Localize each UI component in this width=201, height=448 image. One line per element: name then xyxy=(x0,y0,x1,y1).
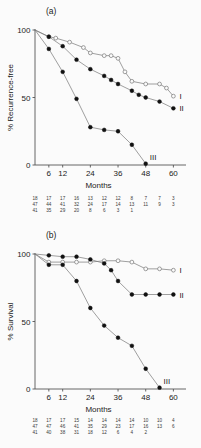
data-point-III xyxy=(61,70,65,74)
risk-table-cell: 41 xyxy=(32,430,37,436)
curve-label-I: I xyxy=(179,92,181,101)
data-point-II xyxy=(130,89,134,93)
y-axis-title: % Recurrence-free xyxy=(6,63,15,131)
data-point-I xyxy=(54,36,58,40)
risk-table-row: 414038311812642 xyxy=(0,430,201,436)
data-point-I xyxy=(68,40,72,44)
x-tick-label: 36 xyxy=(114,393,123,402)
curve-label-II: II xyxy=(179,104,183,113)
data-point-II xyxy=(109,268,113,272)
data-point-III xyxy=(47,47,51,51)
y-tick-label: 0 xyxy=(26,385,31,394)
data-point-II xyxy=(75,58,79,62)
data-point-II xyxy=(102,262,106,266)
data-point-II xyxy=(171,106,175,110)
data-point-III xyxy=(88,306,92,310)
series-line-III xyxy=(35,30,146,164)
data-point-I xyxy=(88,51,92,55)
data-point-I xyxy=(102,54,106,58)
panel-a-figure: (a)05010061224364860Months% Recurrence-f… xyxy=(0,0,201,224)
data-point-II xyxy=(88,258,92,262)
curve-label-II: II xyxy=(179,291,183,300)
data-point-III xyxy=(75,279,79,283)
risk-table-cell: 29 xyxy=(60,208,65,214)
x-tick-label: 36 xyxy=(114,169,123,178)
data-point-III xyxy=(47,263,51,267)
y-axis-title: % Survival xyxy=(6,302,15,340)
risk-table-cell: 40 xyxy=(46,430,51,436)
data-point-II xyxy=(158,293,162,297)
data-point-I xyxy=(75,260,79,264)
risk-table-cell: 35 xyxy=(46,208,51,214)
data-point-III xyxy=(158,386,162,390)
risk-table-cell: 41 xyxy=(32,208,37,214)
x-tick-label: 24 xyxy=(86,169,95,178)
data-point-III xyxy=(130,344,134,348)
data-point-I xyxy=(171,268,175,272)
x-tick-label: 48 xyxy=(141,393,150,402)
data-point-I xyxy=(116,56,120,60)
risk-table-cell: 31 xyxy=(74,430,79,436)
y-tick-label: 50 xyxy=(22,318,31,327)
risk-table-cell: 18 xyxy=(88,430,93,436)
risk-table-cell: 20 xyxy=(74,208,79,214)
risk-table-cell: 12 xyxy=(102,430,107,436)
x-tick-label: 6 xyxy=(47,169,52,178)
data-point-III xyxy=(144,162,148,166)
data-point-II xyxy=(171,293,175,297)
y-tick-label: 0 xyxy=(26,161,31,170)
data-point-II xyxy=(130,293,134,297)
data-point-II xyxy=(47,35,51,39)
y-tick-label: 100 xyxy=(17,250,31,259)
x-tick-label: 12 xyxy=(58,393,67,402)
risk-table-cell: 3 xyxy=(117,208,120,214)
x-axis-title: Months xyxy=(85,405,111,414)
data-point-II xyxy=(47,253,51,257)
risk-table-cell: 6 xyxy=(103,208,106,214)
series-line-III xyxy=(35,254,160,388)
data-point-I xyxy=(144,267,148,271)
x-tick-label: 24 xyxy=(86,393,95,402)
data-point-II xyxy=(61,44,65,48)
data-point-II xyxy=(109,78,113,82)
curve-label-I: I xyxy=(179,266,181,275)
y-tick-label: 50 xyxy=(22,94,31,103)
panel-b-risk-table: 1817171514141414101044747464135292317161… xyxy=(0,418,201,437)
data-point-III xyxy=(102,128,106,132)
data-point-I xyxy=(144,82,148,86)
data-point-I xyxy=(130,260,134,264)
risk-table-cell: 38 xyxy=(60,430,65,436)
series-line-II xyxy=(35,30,173,108)
risk-table-cell: 2 xyxy=(144,430,147,436)
data-point-III xyxy=(144,367,148,371)
panel-label: (a) xyxy=(46,6,57,16)
x-tick-label: 6 xyxy=(47,393,52,402)
panel-label: (b) xyxy=(46,230,57,240)
x-tick-label: 12 xyxy=(58,169,67,178)
curve-label-III: III xyxy=(164,377,171,386)
risk-table-row: 413529208631 xyxy=(0,208,201,214)
x-tick-label: 48 xyxy=(141,169,150,178)
x-tick-label: 60 xyxy=(169,393,178,402)
data-point-I xyxy=(82,46,86,50)
data-point-II xyxy=(158,100,162,104)
data-point-I xyxy=(116,259,120,263)
data-point-I xyxy=(158,82,162,86)
data-point-III xyxy=(75,97,79,101)
data-point-I xyxy=(158,267,162,271)
data-point-I xyxy=(123,70,127,74)
data-point-III xyxy=(116,129,120,133)
panel-b-figure: (b)05010061224364860Months% SurvivalIIII… xyxy=(0,224,201,448)
data-point-II xyxy=(61,255,65,259)
data-point-II xyxy=(116,279,120,283)
data-point-I xyxy=(165,86,169,90)
x-axis-title: Months xyxy=(85,181,111,190)
data-point-I xyxy=(109,54,113,58)
panel-b-plot: (b)05010061224364860Months% SurvivalIIII… xyxy=(0,224,201,420)
data-point-II xyxy=(75,255,79,259)
risk-table-cell: 8 xyxy=(89,208,92,214)
data-point-III xyxy=(130,143,134,147)
data-point-I xyxy=(130,79,134,83)
data-point-III xyxy=(88,125,92,129)
panel-a-plot: (a)05010061224364860Months% Recurrence-f… xyxy=(0,0,201,196)
